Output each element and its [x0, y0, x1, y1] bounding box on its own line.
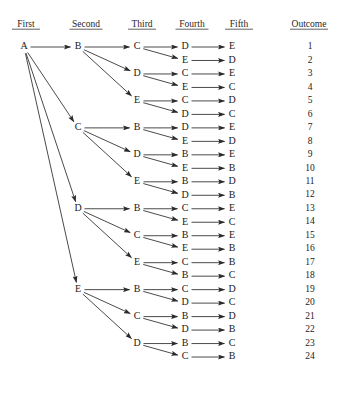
edges-layer: [25, 47, 224, 357]
column-header-second: Second: [70, 19, 103, 29]
outcome-number: 11: [305, 176, 314, 186]
tree-node-fifth: C: [229, 296, 236, 307]
tree-node-fifth: D: [228, 54, 235, 65]
outcomes-layer: 123456789101112131415161718192021222324: [305, 41, 315, 361]
outcome-number: 22: [305, 324, 315, 334]
outcome-number: 8: [308, 136, 313, 146]
outcome-number: 17: [305, 257, 315, 267]
outcome-number: 13: [305, 203, 315, 213]
column-header-fifth: Fifth: [225, 19, 253, 29]
tree-node-fourth: E: [182, 135, 188, 146]
tree-node-third: B: [134, 202, 141, 213]
tree-node-fourth: D: [181, 40, 188, 51]
tree-node-fourth: E: [182, 81, 188, 92]
tree-node-third: B: [134, 121, 141, 132]
outcome-number: 16: [305, 243, 315, 253]
tree-edge: [84, 211, 130, 232]
tree-node-second: D: [74, 202, 81, 213]
tree-node-fourth: E: [182, 162, 188, 173]
outcome-number: 12: [305, 189, 315, 199]
tree-node-third: E: [134, 256, 140, 267]
outcome-number: 24: [305, 351, 315, 361]
tree-node-fifth: B: [229, 162, 236, 173]
tree-node-fifth: D: [228, 310, 235, 321]
tree-node-fourth: B: [182, 269, 189, 280]
tree-node-fifth: C: [229, 108, 236, 119]
tree-edge: [84, 292, 130, 313]
tree-node-fifth: D: [228, 283, 235, 294]
outcome-number: 1: [308, 41, 313, 51]
tree-edge: [84, 131, 130, 152]
outcome-number: 5: [308, 95, 313, 105]
tree-edge: [143, 49, 178, 59]
tree-node-second: E: [75, 283, 81, 294]
column-header-label: First: [17, 19, 35, 29]
tree-node-third: C: [134, 310, 141, 321]
outcome-number: 21: [305, 311, 315, 321]
tree-node-fifth: D: [228, 94, 235, 105]
tree-edge: [143, 211, 178, 221]
outcome-number: 7: [308, 122, 313, 132]
tree-node-fourth: C: [182, 283, 189, 294]
tree-edge: [83, 213, 132, 257]
tree-node-third: D: [133, 148, 140, 159]
column-header-label: Fifth: [230, 19, 249, 29]
outcome-number: 18: [305, 270, 315, 280]
column-header-first: First: [12, 19, 40, 29]
tree-edge: [143, 345, 178, 355]
tree-node-fourth: E: [182, 242, 188, 253]
tree-node-fourth: D: [181, 189, 188, 200]
tree-edge: [143, 291, 178, 301]
tree-edge: [143, 237, 178, 247]
tree-edge: [143, 103, 178, 113]
tree-edge: [83, 132, 132, 176]
tree-node-fourth: C: [182, 67, 189, 78]
column-header-fourth: Fourth: [176, 19, 209, 29]
tree-node-fourth: E: [182, 216, 188, 227]
outcome-number: 19: [305, 284, 315, 294]
tree-node-third: D: [133, 337, 140, 348]
outcome-number: 6: [308, 109, 313, 119]
tree-node-fourth: C: [182, 94, 189, 105]
outcome-number: 4: [308, 82, 313, 92]
tree-node-fifth: E: [229, 148, 235, 159]
tree-node-fifth: E: [229, 202, 235, 213]
column-headers: FirstSecondThirdFourthFifthOutcome: [12, 19, 328, 29]
tree-node-second: B: [75, 40, 82, 51]
tree-node-fourth: D: [181, 108, 188, 119]
tree-node-fourth: D: [181, 323, 188, 334]
outcome-number: 3: [308, 68, 313, 78]
tree-node-third: E: [134, 94, 140, 105]
tree-node-fifth: C: [229, 269, 236, 280]
tree-node-third: D: [133, 67, 140, 78]
tree-edge: [143, 76, 178, 86]
outcome-number: 10: [305, 163, 315, 173]
column-header-label: Fourth: [179, 19, 205, 29]
nodes-layer: ABCDECDEBDEBCEBCDDECECDDEBEBDCEBECBCDBDB…: [20, 40, 235, 361]
tree-node-fifth: D: [228, 135, 235, 146]
tree-node-fourth: E: [182, 54, 188, 65]
outcome-number: 9: [308, 149, 313, 159]
tree-edge: [84, 50, 130, 71]
column-header-outcome: Outcome: [290, 19, 328, 29]
tree-edge: [143, 184, 178, 194]
tree-node-fifth: E: [229, 121, 235, 132]
tree-node-fifth: B: [229, 242, 236, 253]
outcome-number: 23: [305, 338, 315, 348]
tree-node-second: C: [75, 121, 82, 132]
tree-node-fifth: C: [229, 81, 236, 92]
tree-node-fifth: B: [229, 189, 236, 200]
outcome-number: 2: [308, 55, 313, 65]
tree-node-first: A: [20, 40, 28, 51]
tree-node-fifth: E: [229, 40, 235, 51]
outcome-number: 20: [305, 297, 315, 307]
tree-node-third: C: [134, 229, 141, 240]
tree-node-fourth: C: [182, 202, 189, 213]
tree-edge: [143, 318, 178, 328]
column-header-label: Outcome: [292, 19, 327, 29]
tree-node-fourth: B: [182, 175, 189, 186]
tree-edge: [143, 157, 178, 167]
outcome-number: 14: [305, 216, 315, 226]
tree-edge: [83, 294, 132, 338]
tree-node-fourth: C: [182, 256, 189, 267]
